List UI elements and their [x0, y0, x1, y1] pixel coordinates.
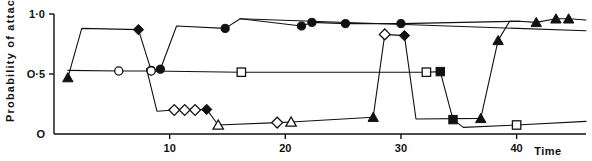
probability-of-attack-line-chart: Probability of attack 10203040OO·51·0 Ti…	[0, 0, 592, 161]
marker-filled-circle-0-10	[341, 20, 349, 28]
marker-open-diamond-3-7	[272, 117, 283, 128]
x-axis-title: Time	[534, 145, 561, 157]
tick-marks	[49, 14, 517, 139]
x-tick-label-10: 10	[164, 142, 176, 154]
marker-filled-circle-0-6	[221, 24, 229, 32]
marker-open-circle-2-1	[115, 67, 123, 75]
chart-container: Probability of attack 10203040OO·51·0 Ti…	[0, 0, 592, 161]
x-tick-label-40: 40	[510, 142, 522, 154]
series-lines	[68, 19, 586, 128]
marker-filled-circle-0-11	[397, 20, 405, 28]
marker-filled-diamond-3-11	[399, 30, 409, 40]
tick-labels: 10203040OO·51·0	[27, 8, 523, 154]
y-axis-title-text: Probability of attack	[4, 0, 16, 122]
marker-filled-diamond-3-5	[201, 104, 211, 114]
y-tick-label-0: O	[36, 128, 45, 140]
marker-filled-diamond-0-2	[133, 24, 143, 34]
marker-filled-triangle-3-9	[368, 112, 378, 121]
marker-filled-triangle-3-14	[493, 35, 503, 44]
marker-open-square-2-3	[237, 68, 245, 76]
marker-open-diamond-3-3	[179, 105, 190, 116]
series-line-mid-flat-trace	[68, 70, 464, 127]
marker-filled-square-2-6	[449, 115, 457, 123]
y-tick-label-1: 1·0	[29, 8, 45, 20]
marker-filled-circle-0-4	[156, 65, 164, 73]
marker-open-diamond-3-10	[379, 29, 390, 40]
marker-open-square-4-1	[512, 121, 520, 129]
marker-open-diamond-3-2	[169, 105, 180, 116]
marker-filled-square-2-5	[436, 67, 444, 75]
marker-open-square-2-4	[422, 68, 430, 76]
marker-open-circle-2-2	[147, 67, 155, 75]
marker-filled-circle-0-8	[297, 22, 305, 30]
marker-open-diamond-3-4	[190, 105, 201, 116]
x-tick-label-20: 20	[279, 142, 291, 154]
y-tick-label-0.5: O·5	[27, 68, 45, 80]
marker-filled-circle-0-9	[308, 18, 316, 26]
marker-filled-triangle-0-0	[63, 73, 73, 82]
y-axis-title: Probability of attack	[4, 0, 16, 122]
axes	[54, 14, 586, 134]
x-tick-label-30: 30	[395, 142, 407, 154]
